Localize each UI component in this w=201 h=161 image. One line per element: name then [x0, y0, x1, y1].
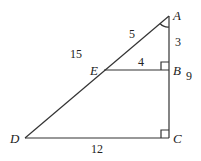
length-EB: 4 — [138, 55, 144, 69]
length-AD: 15 — [70, 47, 82, 61]
point-label-E: E — [89, 63, 98, 78]
point-label-D: D — [9, 131, 20, 146]
right-angle-mark-C — [161, 130, 169, 138]
point-label-A: A — [172, 8, 181, 23]
length-AB: 3 — [175, 35, 181, 49]
similar-triangles-diagram: A B C D E 5 3 15 4 9 12 — [0, 0, 201, 161]
length-DC: 12 — [91, 142, 103, 156]
point-label-B: B — [173, 63, 181, 78]
length-AE: 5 — [129, 27, 135, 41]
right-angle-mark-B — [161, 62, 169, 70]
point-label-C: C — [173, 131, 182, 146]
length-AC: 9 — [186, 69, 192, 83]
angle-mark-A — [160, 24, 169, 28]
